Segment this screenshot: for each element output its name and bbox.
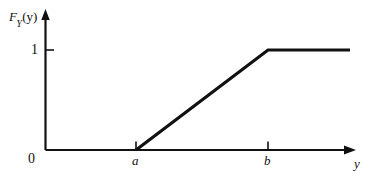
- y-axis-label-argument: (y): [22, 9, 37, 24]
- y-tick-label-one: 1: [31, 43, 38, 57]
- y-axis: [41, 9, 49, 150]
- x-tick-label-b: b: [264, 154, 271, 167]
- x-axis: [46, 145, 357, 154]
- cdf-figure: FY(y) 1 0 a b y: [0, 0, 375, 178]
- cdf-curve: [136, 50, 350, 150]
- origin-label: 0: [28, 152, 35, 166]
- x-tick-label-a: a: [132, 154, 139, 167]
- x-axis-label: y: [354, 157, 360, 170]
- plot-canvas: [0, 0, 375, 178]
- y-axis-label: FY(y): [9, 10, 37, 27]
- y-axis-label-subscript: Y: [16, 19, 21, 29]
